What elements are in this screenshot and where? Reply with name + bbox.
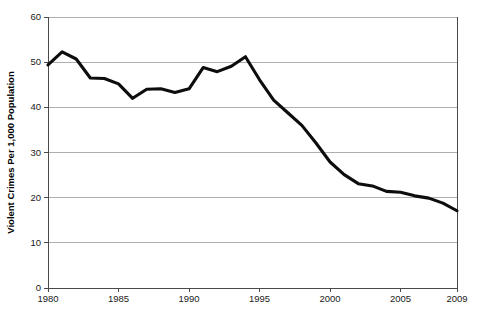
chart-container: 0102030405060 19801985199019952000200520… — [0, 0, 478, 316]
y-axis-tick-label: 30 — [30, 147, 41, 158]
y-axis-tick-label: 60 — [30, 11, 41, 22]
x-axis-tick-label: 2009 — [446, 293, 467, 304]
x-axis-tick-label: 2005 — [390, 293, 411, 304]
x-axis-tick-label: 1985 — [108, 293, 129, 304]
y-axis-title: Violent Crimes Per 1,000 Population — [5, 71, 16, 234]
y-axis-tick-label: 40 — [30, 101, 41, 112]
chart-background — [0, 0, 478, 316]
x-axis-tick-label: 1995 — [249, 293, 270, 304]
x-axis-tick-label: 1980 — [37, 293, 58, 304]
x-axis-tick-label: 2000 — [319, 293, 340, 304]
y-axis-tick-label: 0 — [36, 282, 41, 293]
y-axis-tick-label: 50 — [30, 56, 41, 67]
y-axis-tick-label: 10 — [30, 237, 41, 248]
x-axis-tick-label: 1990 — [178, 293, 199, 304]
violent-crime-line-chart: 0102030405060 19801985199019952000200520… — [0, 0, 478, 316]
y-axis-tick-label: 20 — [30, 192, 41, 203]
